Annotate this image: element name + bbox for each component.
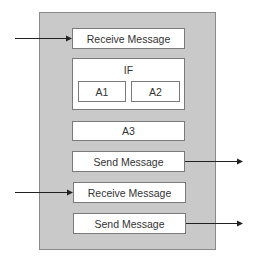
arrows-layer bbox=[0, 0, 255, 259]
incoming-arrow-2 bbox=[15, 190, 73, 196]
outgoing-arrow-2 bbox=[186, 221, 243, 227]
incoming-arrow-1 bbox=[15, 36, 72, 42]
outgoing-arrow-1 bbox=[185, 159, 243, 165]
